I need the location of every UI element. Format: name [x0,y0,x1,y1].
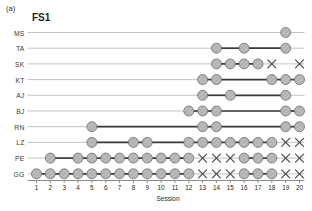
x-tick-label: 3 [57,184,71,191]
attended-marker [225,59,235,69]
attended-marker [211,59,221,69]
attended-marker [198,122,208,132]
row-label-ta: TA [3,45,25,52]
attended-marker [101,169,111,179]
attended-marker [239,43,249,53]
attended-marker [281,28,291,38]
attended-marker [211,122,221,132]
x-tick-label: 9 [140,184,154,191]
x-tick-label: 4 [71,184,85,191]
row-label-aj: AJ [3,92,25,99]
attended-marker [281,106,291,116]
attended-marker [211,137,221,147]
x-tick-label: 8 [126,184,140,191]
x-tick-label: 2 [43,184,57,191]
attended-marker [142,153,152,163]
attended-marker [142,137,152,147]
attended-marker [267,153,277,163]
attended-marker [156,169,166,179]
attended-marker [295,75,305,85]
attended-marker [198,75,208,85]
x-tick-label: 6 [99,184,113,191]
x-tick-label: 5 [85,184,99,191]
attended-marker [267,137,277,147]
session-attendance-chart [0,0,312,211]
x-tick-label: 10 [154,184,168,191]
attended-marker [115,169,125,179]
row-label-pe: PE [3,155,25,162]
attended-marker [73,169,83,179]
attended-marker [170,153,180,163]
attended-marker [184,137,194,147]
x-tick-label: 17 [251,184,265,191]
attended-marker [253,137,263,147]
x-tick-label: 19 [279,184,293,191]
attended-marker [239,169,249,179]
attended-marker [115,153,125,163]
attended-marker [128,137,138,147]
attended-marker [184,169,194,179]
attended-marker [184,106,194,116]
attended-marker [225,137,235,147]
attended-marker [239,153,249,163]
attended-marker [239,59,249,69]
x-tick-label: 13 [196,184,210,191]
attended-marker [87,122,97,132]
attended-marker [32,169,42,179]
attended-marker [295,122,305,132]
attended-marker [253,59,263,69]
x-axis-title: Session [138,195,198,202]
attended-marker [142,169,152,179]
attended-marker [128,153,138,163]
x-tick-label: 16 [237,184,251,191]
attended-marker [253,153,263,163]
attended-marker [87,169,97,179]
attended-marker [211,75,221,85]
attended-marker [198,106,208,116]
row-label-bj: BJ [3,108,25,115]
attended-marker [239,137,249,147]
row-label-sk: SK [3,60,25,67]
attended-marker [87,137,97,147]
row-label-kt: KT [3,76,25,83]
attended-marker [73,153,83,163]
attended-marker [198,90,208,100]
x-tick-label: 11 [168,184,182,191]
attended-marker [225,90,235,100]
row-label-lz: LZ [3,139,25,146]
attended-marker [281,43,291,53]
attended-marker [101,153,111,163]
attended-marker [156,153,166,163]
attended-marker [170,169,180,179]
attended-marker [281,122,291,132]
row-label-rn: RN [3,123,25,130]
attended-marker [198,137,208,147]
x-tick-label: 12 [182,184,196,191]
attended-marker [87,153,97,163]
row-label-gg: GG [3,170,25,177]
attended-marker [184,153,194,163]
attended-marker [281,90,291,100]
attended-marker [211,106,221,116]
attended-marker [295,106,305,116]
attended-marker [253,169,263,179]
figure-panel: (a) FS1 MSTASKKTAJBJRNLZPEGG123456789101… [0,0,312,211]
attended-marker [267,169,277,179]
attended-marker [45,153,55,163]
x-tick-label: 1 [30,184,44,191]
x-tick-label: 18 [265,184,279,191]
attended-marker [211,43,221,53]
x-tick-label: 20 [293,184,307,191]
attended-marker [267,75,277,85]
attended-marker [281,75,291,85]
attended-marker [45,169,55,179]
x-tick-label: 15 [223,184,237,191]
x-tick-label: 7 [113,184,127,191]
row-label-ms: MS [3,29,25,36]
attended-marker [128,169,138,179]
x-tick-label: 14 [209,184,223,191]
attended-marker [59,169,69,179]
